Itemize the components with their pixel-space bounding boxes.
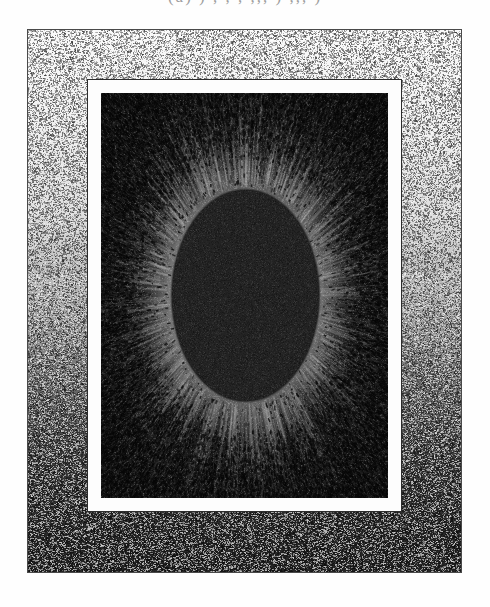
dark-sky-field (101, 93, 388, 498)
moon-grain-texture (172, 190, 319, 401)
caption-crop-strip: (a) ) , , , ,,, ) ,,, ) (0, 0, 490, 14)
caption-text: (a) ) , , , ,,, ) ,,, ) (0, 0, 490, 7)
eclipsing-moon-disk (172, 190, 319, 401)
